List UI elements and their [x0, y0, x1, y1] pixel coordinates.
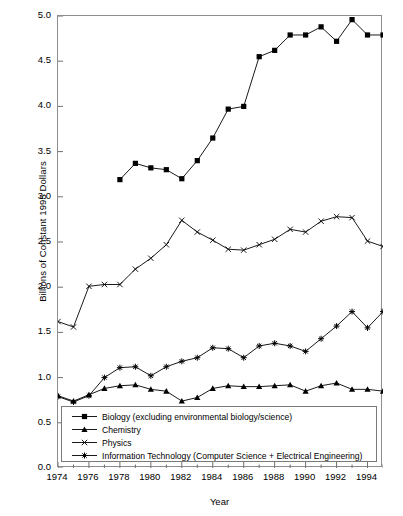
series-0: [117, 17, 383, 182]
series-canvas: [58, 16, 383, 468]
data-point-square: [272, 48, 277, 53]
data-point-square: [164, 167, 169, 172]
legend-item[interactable]: Information Technology (Computer Science…: [62, 449, 376, 462]
legend-marker-square-icon: [71, 411, 98, 422]
data-point-square: [241, 104, 246, 109]
legend-marker-x-icon: [71, 437, 98, 448]
legend-marker-star-icon: [71, 450, 98, 461]
data-point-square: [148, 165, 153, 170]
data-point-square: [380, 32, 383, 37]
legend-label: Chemistry: [102, 425, 141, 435]
data-point-triangle: [194, 394, 200, 400]
plot-area: [57, 15, 382, 467]
data-point-square: [349, 17, 354, 22]
chart-figure: Billions of Constant 1995 Dollars Year 0…: [0, 0, 403, 516]
data-point-square: [210, 135, 215, 140]
series-2: [58, 214, 383, 330]
data-point-triangle: [333, 380, 339, 386]
data-point-square: [365, 32, 370, 37]
legend-label: Information Technology (Computer Science…: [102, 451, 362, 461]
legend-label: Physics: [102, 438, 132, 448]
data-point-square: [179, 176, 184, 181]
series-line: [58, 383, 383, 401]
data-point-square: [303, 32, 308, 37]
legend-item[interactable]: Chemistry: [62, 423, 376, 436]
series-line: [58, 217, 383, 327]
legend-item[interactable]: Biology (excluding environmental biology…: [62, 410, 376, 423]
data-point-square: [226, 107, 231, 112]
legend-marker-triangle-icon: [71, 424, 98, 435]
data-point-square: [195, 158, 200, 163]
data-point-square: [117, 177, 122, 182]
x-tick-label: 1994: [347, 472, 387, 482]
data-point-square: [133, 161, 138, 166]
legend-label: Biology (excluding environmental biology…: [102, 412, 292, 422]
data-point-square: [288, 32, 293, 37]
series-1: [58, 380, 383, 404]
chart-legend: Biology (excluding environmental biology…: [61, 406, 377, 462]
data-point-square: [334, 39, 339, 44]
legend-item[interactable]: Physics: [62, 436, 376, 449]
data-point-square: [257, 54, 262, 59]
series-line: [120, 20, 383, 180]
data-point-square: [318, 24, 323, 29]
data-point-square: [82, 414, 87, 419]
